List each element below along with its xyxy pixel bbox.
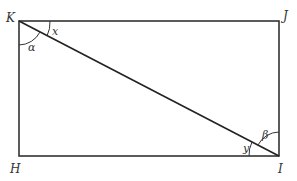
diagonal-KI xyxy=(19,21,279,156)
angle-arc-y xyxy=(249,142,252,156)
vertex-label-H: H xyxy=(9,162,21,176)
vertex-label-I: I xyxy=(277,162,283,176)
angle-label-alpha: α xyxy=(28,41,36,54)
angle-label-x: x xyxy=(52,25,59,38)
vertex-label-J: J xyxy=(280,9,289,23)
angle-label-y: y xyxy=(242,142,250,155)
vertex-label-K: K xyxy=(5,11,16,25)
angle-arc-x xyxy=(47,21,50,36)
angle-label-beta: β xyxy=(261,129,268,142)
rectangle-diagram: K J H I α x β y xyxy=(0,0,297,181)
